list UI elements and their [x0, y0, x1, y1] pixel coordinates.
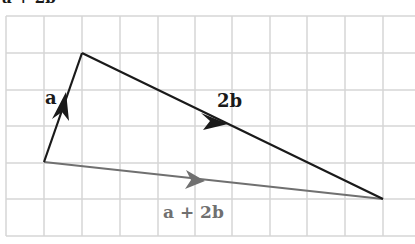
label-2b: 2b [217, 90, 242, 111]
label-a: a [45, 87, 57, 108]
label-a-plus-2b: a + 2b [163, 202, 224, 222]
vector-diagram: a 2b a + 2b [0, 0, 415, 244]
vector-a-plus-2b [44, 162, 383, 199]
